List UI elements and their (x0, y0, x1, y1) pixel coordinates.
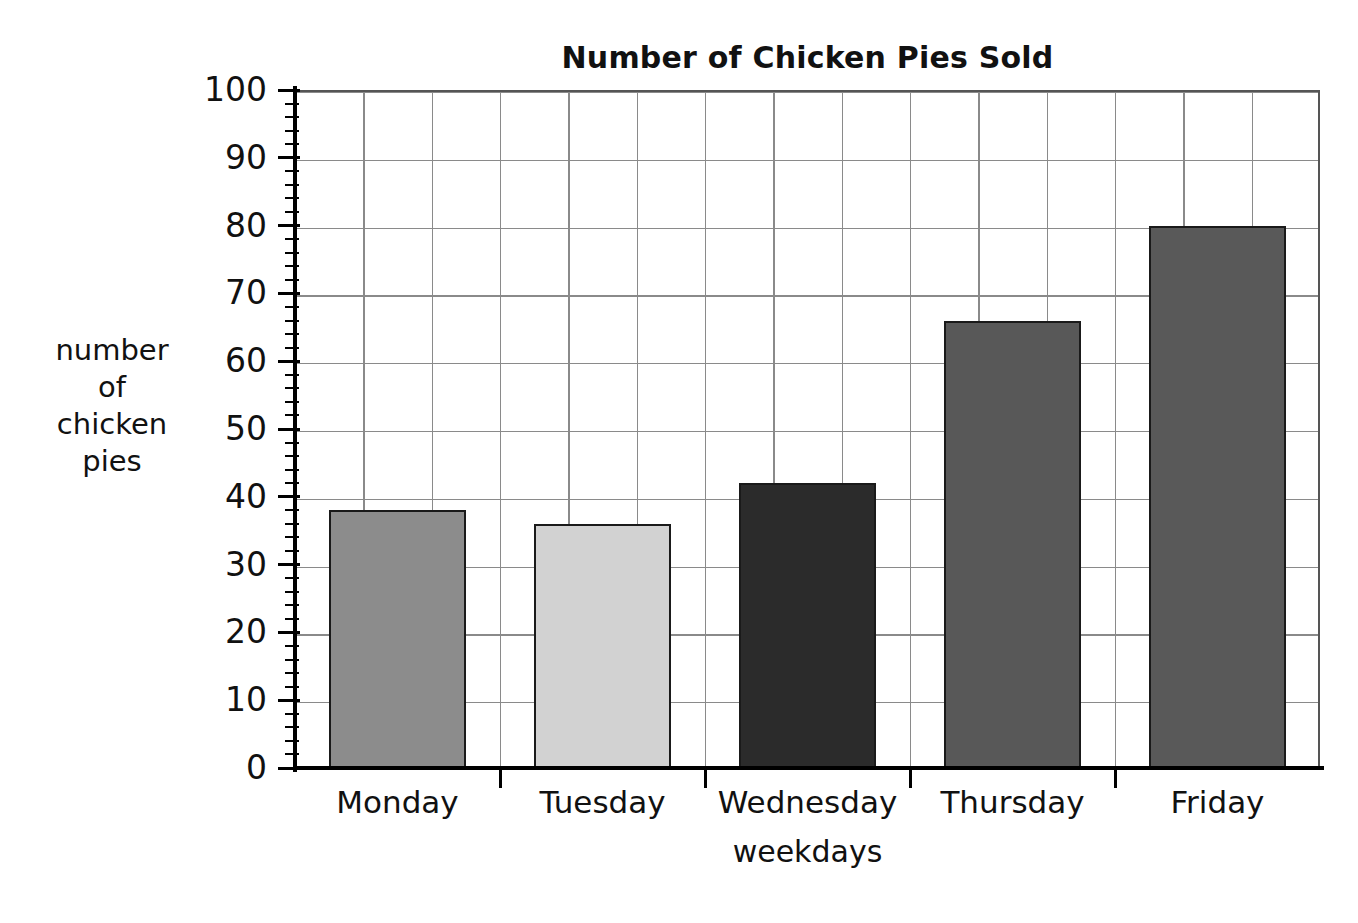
bar-wednesday (739, 483, 876, 768)
y-axis-tick-label: 100 (171, 73, 267, 106)
bar-tuesday (534, 524, 671, 768)
x-axis-label-friday: Friday (1115, 783, 1320, 821)
x-axis-label-thursday: Thursday (910, 783, 1115, 821)
y-axis-tick-label: 40 (171, 480, 267, 513)
y-axis-tick-label: 0 (171, 751, 267, 784)
y-axis-tick-label: 10 (171, 683, 267, 716)
y-axis-line (293, 86, 297, 772)
x-axis-label: weekdays (295, 834, 1320, 869)
y-axis-tick-label: 60 (171, 344, 267, 377)
x-axis-label-wednesday: Wednesday (705, 783, 910, 821)
y-axis-tick-label: 80 (171, 209, 267, 242)
bar-thursday (944, 321, 1081, 768)
y-axis-tick-label: 90 (171, 141, 267, 174)
y-axis-tick-label: 20 (171, 615, 267, 648)
bar-friday (1149, 226, 1286, 768)
y-axis-tick-label: 70 (171, 276, 267, 309)
x-axis-label-monday: Monday (295, 783, 500, 821)
y-axis-tick-label: 50 (171, 412, 267, 445)
bar-monday (329, 510, 466, 768)
chart-title: Number of Chicken Pies Sold (295, 40, 1320, 75)
x-axis-label-tuesday: Tuesday (500, 783, 705, 821)
y-axis-tick-labels: 0102030405060708090100 (96, 0, 268, 923)
y-axis-tick-label: 30 (171, 548, 267, 581)
x-axis-line (293, 766, 1324, 770)
bar-chart: Number of Chicken Pies Sold number of ch… (0, 0, 1358, 923)
